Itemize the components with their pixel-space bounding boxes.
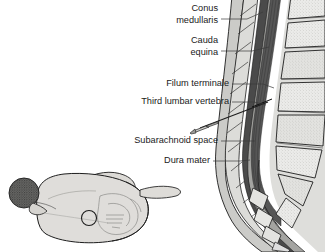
label-text-filum-terminale: Filum terminale bbox=[166, 78, 229, 88]
label-text-conus-medullaris-line2: medullaris bbox=[176, 15, 218, 25]
vertebral-body bbox=[288, 0, 325, 19]
label-text-cauda-equina-line2: equina bbox=[190, 47, 218, 57]
vertebral-body bbox=[281, 50, 325, 79]
label-text-cauda-equina-line1: Cauda bbox=[191, 35, 219, 45]
vertebral-body-l3 bbox=[278, 82, 325, 112]
patient-arm bbox=[140, 186, 181, 198]
label-text-conus-medullaris-line1: Conus bbox=[191, 3, 218, 13]
label-text-subarachnoid-space: Subarachnoid space bbox=[134, 135, 218, 145]
vertebral-body bbox=[276, 115, 325, 146]
lumbar-puncture-figure: Conus medullaris Cauda equina Filum term… bbox=[0, 0, 325, 252]
vertebral-body bbox=[285, 20, 325, 48]
label-text-dura-mater: Dura mater bbox=[164, 155, 210, 165]
label-text-third-lumbar-vertebra: Third lumbar vertebra bbox=[141, 96, 230, 106]
